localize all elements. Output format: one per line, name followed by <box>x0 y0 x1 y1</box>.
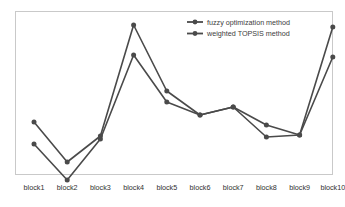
line-chart-figure: fuzzy optimization methodweighted TOPSIS… <box>0 0 345 207</box>
data-point <box>164 89 169 94</box>
data-point <box>131 53 136 58</box>
data-point <box>231 105 236 110</box>
data-point <box>264 135 269 140</box>
x-tick-label: block10 <box>320 183 345 192</box>
legend-label: fuzzy optimization method <box>207 18 290 27</box>
x-tick-label: block2 <box>57 183 78 192</box>
data-point <box>297 133 302 138</box>
x-tick-label: block5 <box>156 183 177 192</box>
chart-canvas: fuzzy optimization methodweighted TOPSIS… <box>0 0 345 207</box>
data-point <box>264 123 269 128</box>
data-point <box>164 100 169 105</box>
data-point <box>32 120 37 125</box>
data-point <box>330 25 335 30</box>
legend-marker <box>193 20 198 25</box>
data-point <box>32 142 37 147</box>
data-point <box>198 113 203 118</box>
x-tick-label: block9 <box>289 183 310 192</box>
data-point <box>131 23 136 28</box>
x-tick-label: block7 <box>223 183 244 192</box>
data-point <box>330 55 335 60</box>
data-point <box>65 178 70 183</box>
legend-label: weighted TOPSIS method <box>206 29 290 38</box>
x-tick-label: block1 <box>24 183 45 192</box>
x-tick-label: block8 <box>256 183 277 192</box>
x-axis-tick-labels: block1block2block3block4block5block6bloc… <box>24 183 345 192</box>
legend-marker <box>193 31 198 36</box>
x-tick-label: block4 <box>123 183 144 192</box>
data-point <box>98 137 103 142</box>
x-tick-label: block6 <box>190 183 211 192</box>
x-tick-label: block3 <box>90 183 111 192</box>
data-point <box>65 160 70 165</box>
